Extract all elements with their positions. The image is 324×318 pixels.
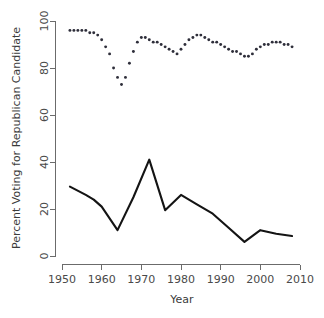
x-tick-label: 2010 xyxy=(286,273,314,286)
data-point xyxy=(271,41,274,44)
y-tick-label: 100 xyxy=(38,11,51,32)
data-point xyxy=(136,41,139,44)
data-point xyxy=(164,45,167,48)
data-point xyxy=(259,45,262,48)
y-tick-label: 80 xyxy=(38,61,51,75)
data-point xyxy=(263,43,266,46)
data-point xyxy=(92,31,95,34)
data-point xyxy=(227,48,230,51)
data-point xyxy=(108,52,111,55)
x-tick-label: 1970 xyxy=(127,273,155,286)
data-point xyxy=(283,43,286,46)
data-point xyxy=(247,55,250,58)
data-point xyxy=(156,41,159,44)
data-point xyxy=(96,34,99,37)
data-point xyxy=(191,36,194,39)
data-point xyxy=(68,29,71,32)
data-point xyxy=(251,52,254,55)
data-point xyxy=(239,52,242,55)
data-point xyxy=(243,55,246,58)
data-point xyxy=(100,38,103,41)
chart-figure: 020406080100 195019601970198019902000201… xyxy=(0,0,324,318)
data-point xyxy=(255,48,258,51)
solid-lower-series xyxy=(70,160,292,242)
data-point xyxy=(116,76,119,79)
data-point xyxy=(76,29,79,32)
x-tick-label: 1990 xyxy=(207,273,235,286)
data-point xyxy=(279,41,282,44)
data-point xyxy=(132,50,135,53)
data-point xyxy=(195,34,198,37)
data-point xyxy=(187,38,190,41)
data-point xyxy=(72,29,75,32)
data-point xyxy=(120,83,123,86)
data-point xyxy=(172,50,175,53)
x-axis-title: Year xyxy=(169,293,194,306)
y-tick-label: 0 xyxy=(38,253,51,260)
data-point xyxy=(176,52,179,55)
data-point xyxy=(215,41,218,44)
y-axis: 020406080100 xyxy=(38,11,56,260)
data-point xyxy=(104,45,107,48)
dotted-upper-series xyxy=(68,29,293,86)
data-point xyxy=(128,62,131,65)
data-point xyxy=(231,50,234,53)
data-point xyxy=(80,29,83,32)
y-axis-title: Percent Voting for Republican Candidate xyxy=(10,27,23,249)
data-point xyxy=(180,48,183,51)
x-tick-label: 2000 xyxy=(246,273,274,286)
data-point xyxy=(203,36,206,39)
data-point xyxy=(184,43,187,46)
y-tick-label: 60 xyxy=(38,108,51,122)
data-point xyxy=(267,43,270,46)
y-tick-label: 20 xyxy=(38,202,51,216)
data-point xyxy=(140,36,143,39)
y-tick-label: 40 xyxy=(38,155,51,169)
data-point xyxy=(168,48,171,51)
data-point xyxy=(160,43,163,46)
plot-canvas: 020406080100 195019601970198019902000201… xyxy=(0,0,324,318)
x-tick-label: 1950 xyxy=(48,273,76,286)
data-point xyxy=(211,41,214,44)
data-point xyxy=(144,36,147,39)
data-point xyxy=(124,76,127,79)
data-point xyxy=(291,45,294,48)
x-tick-label: 1960 xyxy=(88,273,116,286)
data-point xyxy=(84,29,87,32)
x-tick-label: 1980 xyxy=(167,273,195,286)
data-point xyxy=(275,41,278,44)
data-point xyxy=(199,34,202,37)
data-point xyxy=(223,45,226,48)
data-point xyxy=(235,50,238,53)
data-series-group xyxy=(68,29,293,242)
x-axis: 1950196019701980199020002010 xyxy=(48,265,314,287)
data-point xyxy=(152,41,155,44)
data-point xyxy=(112,67,115,70)
data-point xyxy=(88,31,91,34)
data-point xyxy=(148,38,151,41)
data-point xyxy=(207,38,210,41)
data-point xyxy=(219,43,222,46)
data-point xyxy=(287,43,290,46)
